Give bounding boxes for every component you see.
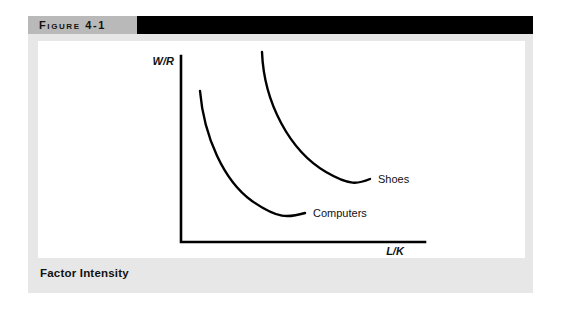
x-axis-label: L/K: [386, 245, 405, 257]
curve-label-shoes: Shoes: [378, 173, 410, 185]
figure-header-black-bar: [137, 16, 533, 34]
figure-block: Figure 4-1 W/R L/K Computers Shoes Facto…: [28, 16, 533, 293]
figure-caption-text: Factor Intensity: [40, 267, 129, 279]
figure-header: Figure 4-1: [28, 16, 533, 34]
y-axis-label: W/R: [153, 55, 174, 67]
plot-surface: W/R L/K Computers Shoes: [38, 41, 525, 258]
curve-shoes: [262, 52, 370, 183]
figure-caption-band: Factor Intensity: [28, 258, 533, 293]
factor-intensity-chart: W/R L/K Computers Shoes: [38, 41, 525, 258]
curve-computers: [200, 91, 305, 216]
figure-number-label: Figure 4-1: [28, 16, 137, 34]
figure-frame: W/R L/K Computers Shoes Factor Intensity: [28, 34, 533, 293]
curve-label-computers: Computers: [313, 207, 367, 219]
